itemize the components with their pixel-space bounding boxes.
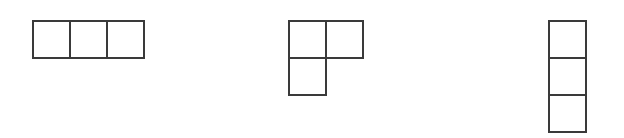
tromino-figure-group bbox=[0, 0, 624, 138]
horizontal-i-tromino-cell-1 bbox=[70, 21, 107, 58]
vertical-i-tromino-cell-0 bbox=[549, 21, 586, 58]
vertical-i-tromino-cell-1 bbox=[549, 58, 586, 95]
l-tromino-cell-2 bbox=[289, 58, 326, 95]
figure-canvas bbox=[0, 0, 624, 138]
l-tromino-cell-0 bbox=[289, 21, 326, 58]
horizontal-i-tromino-cell-2 bbox=[107, 21, 144, 58]
vertical-i-tromino-cell-2 bbox=[549, 95, 586, 132]
vertical-i-tromino bbox=[549, 21, 586, 132]
horizontal-i-tromino bbox=[33, 21, 144, 58]
l-tromino-cell-1 bbox=[326, 21, 363, 58]
horizontal-i-tromino-cell-0 bbox=[33, 21, 70, 58]
